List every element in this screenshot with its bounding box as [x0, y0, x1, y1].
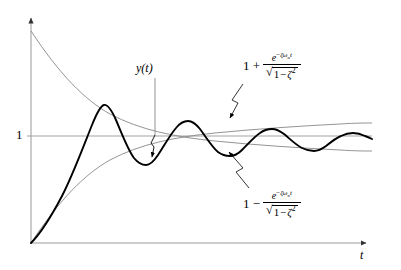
y-axis-tick-label: 1 [16, 128, 23, 141]
lower-envelope-leader [229, 152, 249, 188]
lower-envelope-denominator: √ 1 − ζ2 [263, 203, 300, 218]
exponent-t: t [290, 51, 292, 59]
radicand-minus: − [280, 68, 286, 80]
radical-body: 1 − ζ2 [272, 67, 298, 80]
radicand-power: 2 [292, 204, 296, 213]
x-axis-label: t [360, 249, 363, 261]
curve-label-arrow [151, 135, 155, 157]
upper-envelope-equation: 1 + e−ζωnt √ 1 − ζ2 [243, 52, 301, 80]
plot-canvas [0, 0, 401, 270]
exp-exponent: −ζωnt [276, 51, 292, 59]
radical-body: 1 − ζ2 [272, 205, 298, 218]
lower-envelope-equation: 1 − e−ζωnt √ 1 − ζ2 [243, 190, 301, 218]
upper-envelope-denominator: √ 1 − ζ2 [263, 65, 300, 80]
upper-envelope-numerator: e−ζωnt [269, 52, 295, 64]
radicand-one: 1 [274, 68, 280, 80]
radicand-minus: − [280, 206, 286, 218]
exp-exponent: −ζωnt [276, 189, 292, 197]
upper-envelope-fraction: e−ζωnt √ 1 − ζ2 [263, 52, 300, 80]
radicand-power: 2 [292, 66, 296, 75]
lower-envelope-fraction: e−ζωnt √ 1 − ζ2 [263, 190, 300, 218]
step-response-curve [31, 105, 372, 243]
lower-envelope-numerator: e−ζωnt [269, 190, 295, 202]
curve-label: y(t) [136, 62, 153, 74]
radical-group: √ 1 − ζ2 [266, 204, 297, 218]
radical-group: √ 1 − ζ2 [266, 66, 297, 80]
upper-envelope-curve [31, 31, 372, 151]
lower-envelope-curve [31, 123, 372, 243]
lower-envelope-lead: 1 − [243, 196, 260, 212]
upper-envelope-leader [230, 84, 243, 118]
exponent-t: t [290, 189, 292, 197]
radicand-one: 1 [274, 206, 280, 218]
upper-envelope-lead: 1 + [243, 58, 260, 74]
figure-container: 1 t y(t) 1 + e−ζωnt √ 1 − ζ2 1 − e−ζωnt [0, 0, 401, 270]
